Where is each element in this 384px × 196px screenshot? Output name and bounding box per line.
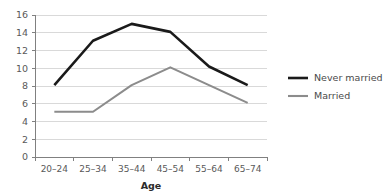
x-tick-label: 20–24 (41, 164, 69, 174)
x-axis-title: Age (141, 180, 162, 191)
legend-label-never-married: Never married (314, 72, 383, 83)
y-tick-label: 16 (16, 9, 28, 20)
y-tick-label: 10 (16, 63, 28, 74)
series-line-married (54, 67, 247, 111)
y-tick-label: 14 (16, 27, 28, 38)
legend-label-married: Married (314, 90, 350, 101)
chart-canvas: 0246810121416 20–2425–3435–4445–5455–646… (0, 0, 384, 196)
y-tick-label: 12 (16, 45, 28, 56)
x-tick-label: 25–34 (79, 164, 107, 174)
y-tick-label: 0 (22, 151, 28, 162)
x-tick-label: 65–74 (234, 164, 262, 174)
x-tick-label: 45–54 (157, 164, 185, 174)
x-tick-label: 55–64 (195, 164, 223, 174)
y-tick-label: 2 (22, 134, 28, 145)
y-tick-labels: 0246810121416 (16, 9, 35, 162)
x-tick-labels: 20–2425–3435–4445–5455–6465–74 (35, 157, 267, 174)
y-tick-label: 4 (22, 116, 28, 127)
y-tick-label: 6 (22, 98, 28, 109)
gridlines (35, 15, 267, 157)
line-chart: 0246810121416 20–2425–3435–4445–5455–646… (0, 0, 384, 196)
chart-legend: Never marriedMarried (288, 72, 383, 101)
y-tick-label: 8 (22, 80, 28, 91)
x-tick-label: 35–44 (118, 164, 146, 174)
